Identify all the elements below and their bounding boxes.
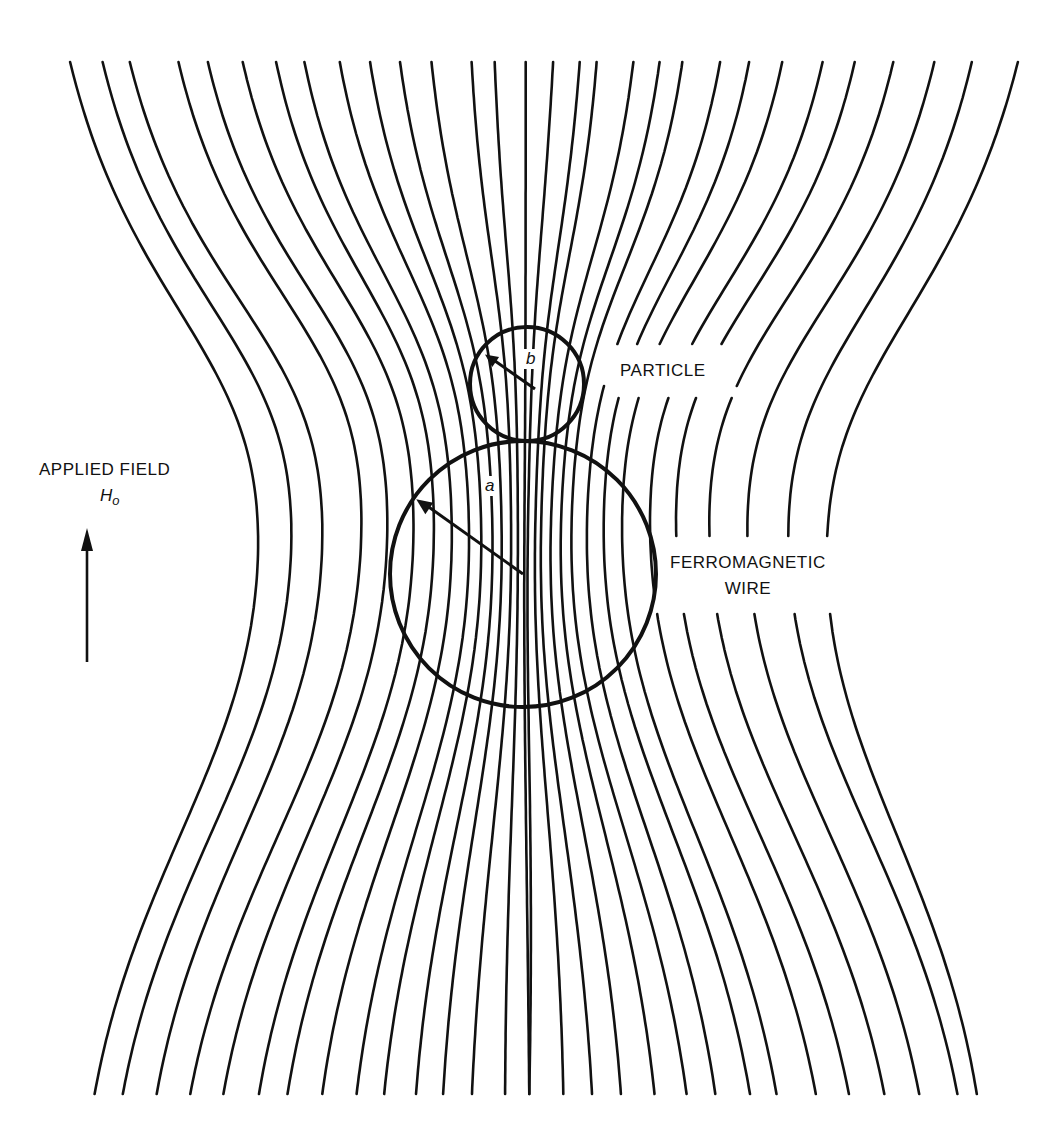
field-line [495, 62, 518, 1094]
field-line [400, 62, 493, 1094]
radius-a-symbol: a [483, 476, 496, 496]
field-line [179, 62, 362, 1094]
particle-label: PARTICLE [612, 356, 714, 386]
applied-field-arrow-icon [81, 528, 93, 662]
field-line [622, 398, 776, 1094]
field-line [103, 62, 292, 1094]
field-line [684, 614, 849, 1094]
field-line [788, 62, 972, 536]
field-line [737, 62, 894, 386]
field-lines [70, 62, 1018, 1094]
radius-b-symbol: b [524, 349, 537, 369]
field-line [754, 614, 919, 1094]
field-line [676, 398, 696, 536]
field-line [70, 62, 258, 1094]
applied-field-label: APPLIED FIELD [33, 455, 176, 485]
field-line [709, 398, 731, 536]
field-line [722, 62, 855, 344]
field-line [795, 614, 958, 1094]
field-line [717, 614, 884, 1094]
applied-field-symbol: Ho [96, 484, 124, 510]
field-diagram [0, 0, 1050, 1128]
field-line [370, 62, 481, 1094]
field-line [660, 62, 783, 344]
field-line [747, 62, 934, 536]
ferromagnetic-wire-label: FERROMAGNETIC WIRE [662, 548, 834, 604]
field-line [827, 62, 1018, 536]
